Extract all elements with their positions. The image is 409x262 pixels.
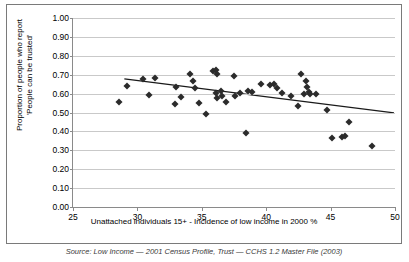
y-tick-mark bbox=[70, 75, 73, 76]
y-tick-mark bbox=[70, 188, 73, 189]
gridline bbox=[73, 18, 395, 19]
gridline bbox=[73, 150, 395, 151]
y-tick-label: 0.00 bbox=[52, 203, 69, 211]
y-axis-title: Proportion of people who report 'People … bbox=[15, 0, 35, 165]
y-tick-label: 0.20 bbox=[52, 165, 69, 173]
y-tick-label: 0.80 bbox=[52, 52, 69, 60]
y-tick-label: 0.90 bbox=[52, 33, 69, 41]
gridline bbox=[73, 113, 395, 114]
y-tick-mark bbox=[70, 37, 73, 38]
gridline bbox=[73, 37, 395, 38]
y-tick-label: 0.50 bbox=[52, 109, 69, 117]
y-tick-mark bbox=[70, 150, 73, 151]
x-tick-mark bbox=[395, 207, 396, 211]
x-tick-mark bbox=[331, 207, 332, 211]
x-tick-mark bbox=[202, 207, 203, 211]
y-tick-label: 1.00 bbox=[52, 14, 69, 22]
x-tick-mark bbox=[73, 207, 74, 211]
gridline bbox=[73, 188, 395, 189]
y-tick-label: 0.10 bbox=[52, 184, 69, 192]
x-tick-mark bbox=[137, 207, 138, 211]
plot-area: 0.000.100.200.300.400.500.600.700.800.90… bbox=[72, 18, 395, 208]
y-tick-mark bbox=[70, 169, 73, 170]
y-tick-mark bbox=[70, 18, 73, 19]
y-tick-mark bbox=[70, 56, 73, 57]
y-tick-label: 0.40 bbox=[52, 127, 69, 135]
figure-frame: Proportion of people who report 'People … bbox=[6, 4, 402, 244]
x-axis-title: Unattached individuals 15+ - Incidence o… bbox=[7, 217, 401, 227]
gridline bbox=[73, 56, 395, 57]
x-tick-mark bbox=[266, 207, 267, 211]
y-tick-label: 0.30 bbox=[52, 146, 69, 154]
y-tick-mark bbox=[70, 131, 73, 132]
y-tick-label: 0.70 bbox=[52, 71, 69, 79]
gridline bbox=[73, 169, 395, 170]
source-caption: Source: Low Income — 2001 Census Profile… bbox=[6, 247, 402, 257]
gridline bbox=[73, 131, 395, 132]
y-tick-mark bbox=[70, 113, 73, 114]
y-tick-label: 0.60 bbox=[52, 90, 69, 98]
y-tick-mark bbox=[70, 94, 73, 95]
